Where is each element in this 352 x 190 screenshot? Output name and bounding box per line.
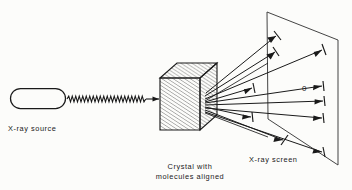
x-ray-screen-label: X-ray screen bbox=[249, 155, 298, 165]
diffracted-ray bbox=[205, 108, 324, 123]
crystal-front-face bbox=[160, 78, 200, 130]
x-ray-source-label: X-ray source bbox=[8, 124, 57, 134]
crystal-label-line-2: molecules aligned bbox=[142, 172, 238, 182]
xray-diffraction-figure: X-ray source Crystal with molecules alig… bbox=[0, 0, 352, 190]
crystal-label-line-1: Crystal with bbox=[142, 162, 238, 172]
diffracted-ray bbox=[205, 44, 326, 99]
diffracted-ray bbox=[205, 110, 288, 145]
diffracted-ray-group bbox=[205, 31, 326, 157]
crystal-label: Crystal with molecules aligned bbox=[142, 162, 238, 181]
crystal-cube bbox=[160, 63, 217, 130]
incident-x-ray-beam bbox=[67, 96, 159, 102]
diffracted-ray bbox=[205, 96, 325, 106]
diffracted-ray bbox=[206, 31, 281, 93]
center-spot-label: 0 bbox=[302, 84, 306, 94]
x-ray-source-tube bbox=[11, 89, 66, 109]
diffracted-ray bbox=[205, 112, 325, 157]
